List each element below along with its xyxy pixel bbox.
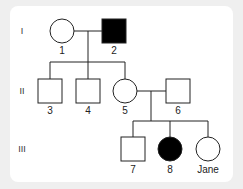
generation-label-ii: II [19, 86, 24, 96]
individual-label-4: 4 [85, 105, 91, 116]
individual-label-5: 5 [122, 105, 128, 116]
generation-label-i: I [21, 26, 24, 36]
generation-label-iii: III [18, 144, 26, 154]
individual-label-7: 7 [130, 164, 136, 175]
individual-label-8: 8 [167, 164, 173, 175]
individual-7-male-icon [121, 137, 145, 161]
individual-3-male-icon [38, 79, 62, 103]
individual-2-affected-male-icon [102, 19, 126, 43]
individual-5-female-icon [113, 79, 137, 103]
individual-label-jane: Jane [197, 164, 219, 175]
individual-6-male-icon [166, 79, 190, 103]
individual-label-6: 6 [175, 105, 181, 116]
individual-jane-female-icon [196, 137, 220, 161]
individual-label-2: 2 [111, 45, 117, 56]
individual-4-male-icon [76, 79, 100, 103]
individual-8-affected-female-icon [158, 137, 182, 161]
individual-label-3: 3 [47, 105, 53, 116]
individual-label-1: 1 [59, 45, 65, 56]
individual-1-female-icon [50, 19, 74, 43]
pedigree-chart: I II III 1 2 3 4 5 6 7 8 Jane [0, 0, 243, 189]
